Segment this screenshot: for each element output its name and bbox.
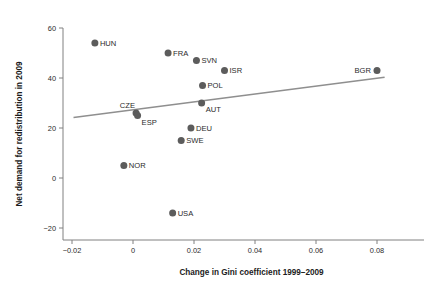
data-point-label: HUN — [100, 39, 116, 48]
data-point-label: USA — [178, 209, 195, 218]
data-point-label: DEU — [196, 124, 212, 133]
data-point: ESP — [134, 112, 157, 127]
data-point-marker — [91, 40, 98, 47]
y-tick-label: −20 — [43, 224, 56, 233]
y-tick-label: 20 — [48, 124, 56, 133]
data-point-marker — [199, 82, 206, 89]
data-point: DEU — [187, 124, 212, 133]
data-point: SWE — [178, 136, 204, 145]
data-point-marker — [221, 67, 228, 74]
data-point-marker — [187, 125, 194, 132]
data-point-label: POL — [208, 81, 223, 90]
x-tick-label: 0.04 — [248, 246, 262, 255]
data-point-marker — [193, 57, 200, 64]
data-point: SVN — [193, 56, 217, 65]
y-axis-ticks: −200204060 — [43, 24, 63, 233]
data-point: FRA — [165, 49, 190, 58]
data-point-label: BGR — [355, 66, 372, 75]
x-tick-label: 0 — [131, 246, 135, 255]
y-tick-label: 0 — [52, 174, 56, 183]
data-point-marker — [120, 162, 127, 169]
chart-canvas: −200204060 −0.0200.020.040.060.08 HUNNOR… — [0, 0, 435, 290]
data-point-label: ESP — [142, 118, 157, 127]
regression-line — [74, 77, 385, 117]
data-point-label: NOR — [129, 161, 146, 170]
data-point-label: AUT — [206, 105, 222, 114]
data-point-label: FRA — [173, 49, 189, 58]
data-point-marker — [374, 67, 381, 74]
x-tick-label: 0.08 — [370, 246, 384, 255]
axes-group: −200204060 −0.0200.020.040.060.08 — [43, 24, 424, 255]
x-tick-label: 0.02 — [187, 246, 201, 255]
data-point: POL — [199, 81, 223, 90]
data-point-label: ISR — [230, 66, 243, 75]
data-point-label: SWE — [186, 136, 203, 145]
data-point-marker — [134, 112, 141, 119]
data-point: HUN — [91, 39, 116, 48]
data-points-group: HUNNORCZEESPFRAUSASWEDEUSVNAUTPOLISRBGR — [91, 39, 380, 218]
y-tick-label: 40 — [48, 74, 56, 83]
data-point-marker — [178, 137, 185, 144]
data-point: USA — [169, 209, 194, 218]
x-tick-label: 0.06 — [309, 246, 323, 255]
data-point-marker — [165, 50, 172, 57]
data-point-marker — [198, 100, 205, 107]
data-point-label: CZE — [120, 101, 135, 110]
x-axis-title: Change in Gini coefficient 1999–2009 — [179, 268, 324, 277]
scatter-chart: −200204060 −0.0200.020.040.060.08 HUNNOR… — [0, 0, 435, 290]
data-point: BGR — [355, 66, 381, 75]
y-tick-label: 60 — [48, 24, 56, 33]
data-point-label: SVN — [201, 56, 217, 65]
data-point: AUT — [198, 100, 221, 115]
data-point: ISR — [221, 66, 243, 75]
data-point: NOR — [120, 161, 146, 170]
fit-line-group — [74, 77, 385, 117]
x-tick-label: −0.02 — [63, 246, 82, 255]
y-axis-title: Net demand for redistribution in 2009 — [15, 61, 24, 207]
data-point-marker — [169, 210, 176, 217]
x-axis-ticks: −0.0200.020.040.060.08 — [63, 240, 385, 255]
